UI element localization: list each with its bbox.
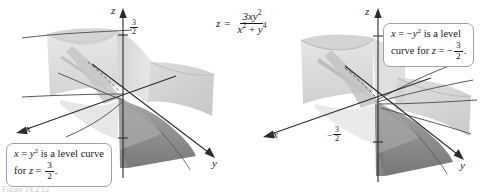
callout-left-exp: 2 <box>35 147 39 155</box>
equation-den-b-exp: 4 <box>263 21 267 30</box>
surface-sheet-right <box>148 62 214 116</box>
callout-left-eq-1: = <box>21 148 27 159</box>
callout-right-line-1: x = −y2 is a level <box>391 27 466 41</box>
callout-right-line-2: curve for z = −32. <box>391 41 466 61</box>
x-axis-label-left: x <box>26 122 31 134</box>
y-axis-label-right: y <box>460 159 465 171</box>
callout-left-eq-2: = <box>36 165 42 176</box>
equation-equals: = <box>224 17 230 29</box>
callout-left-den: 2 <box>45 172 54 182</box>
surface-sheet-lower-left-right <box>315 104 375 144</box>
z-tick-label-left: 3 2 <box>129 19 139 37</box>
figure-caption: Figure 14.2.12 <box>2 185 49 192</box>
callout-left-fraction: 32 <box>45 161 54 181</box>
callout-right-var-z: z <box>432 45 436 56</box>
callout-left-text-2: for <box>14 165 26 176</box>
z-axis-label-left: z <box>111 4 115 16</box>
callout-right-period: . <box>464 45 467 56</box>
tick-denominator-left: 2 <box>130 28 138 36</box>
callout-left-var-z: z <box>29 165 33 176</box>
figure-container: z x y 3 2 x = y2 is a level curve for z … <box>0 0 489 192</box>
callout-right-eq-2: = <box>439 45 445 56</box>
tick-fraction-right: 3 2 <box>333 126 341 144</box>
surface-plot-left: z x y 3 2 x = y2 is a level curve for z … <box>0 0 245 192</box>
callout-left-text-1: is a level curve <box>41 148 104 159</box>
callout-right-exp: 2 <box>417 27 421 35</box>
surface-equation: z = 3xy2 x2 + y4 <box>216 11 269 35</box>
callout-right-fraction: 32 <box>454 41 463 61</box>
callout-right-sign-2: − <box>447 45 453 56</box>
callout-right-den: 2 <box>454 52 463 62</box>
callout-left-var-x: x <box>14 148 19 159</box>
z-axis-arrowhead-right <box>374 8 381 18</box>
callout-right-var-x: x <box>391 28 396 39</box>
callout-left-line-1: x = y2 is a level curve <box>14 147 104 161</box>
equation-den-a-exp: 2 <box>242 21 246 30</box>
tick-denominator-right: 2 <box>333 135 341 143</box>
equation-denominator: x2 + y4 <box>236 24 269 36</box>
z-axis-arrowhead-left <box>119 8 126 18</box>
equation-numerator-exp: 2 <box>258 8 262 17</box>
callout-right-text-2: curve for <box>391 45 429 56</box>
z-tick-label-right: − 3 2 <box>327 126 342 144</box>
callout-left-line-2: for z = 32. <box>14 161 104 181</box>
callout-right-text-1: is a level <box>424 28 461 39</box>
equation-den-plus: + <box>249 23 255 35</box>
tick-fraction-left: 3 2 <box>130 19 138 37</box>
surface-sheet-center-upper <box>116 30 150 104</box>
y-axis-label-left: y <box>212 157 217 169</box>
callout-right-eq-1: = <box>398 28 404 39</box>
equation-fraction: 3xy2 x2 + y4 <box>236 11 269 35</box>
tick-sign-right: − <box>327 130 332 140</box>
z-axis-label-right: z <box>365 5 369 17</box>
equation-lhs: z <box>216 17 220 29</box>
callout-left-period: . <box>55 165 58 176</box>
callout-box-right: x = −y2 is a level curve for z = −32. <box>383 23 474 67</box>
surface-sheet-lower-left <box>60 100 118 140</box>
surface-plot-right: z x y − 3 2 x = −y2 is a level curve for… <box>245 0 489 192</box>
x-axis-label-right: x <box>273 128 278 140</box>
callout-box-left: x = y2 is a level curve for z = 32. <box>6 143 112 187</box>
